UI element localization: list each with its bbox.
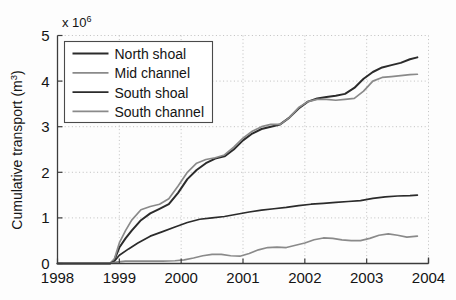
y-tick-label: 3 — [41, 118, 49, 135]
x-tick-label: 2003 — [350, 269, 383, 286]
x-tick-label: 2001 — [226, 269, 259, 286]
y-tick-label: 2 — [41, 164, 49, 181]
y-tick-label: 1 — [41, 209, 49, 226]
y-tick-label: 5 — [41, 27, 49, 44]
line-chart-plot: 0123451998199920002001200220032004 North… — [0, 0, 456, 300]
legend-label-south-channel[interactable]: South channel — [115, 104, 205, 120]
legend-label-mid-channel[interactable]: Mid channel — [115, 65, 191, 81]
chart-legend[interactable]: North shoalMid channelSouth shoalSouth c… — [65, 42, 213, 123]
y-tick-label: 4 — [41, 73, 49, 90]
x-tick-label: 2002 — [288, 269, 321, 286]
x-tick-label: 1998 — [41, 269, 74, 286]
chart-figure: 0123451998199920002001200220032004 North… — [0, 0, 456, 300]
legend-label-north-shoal[interactable]: North shoal — [115, 46, 187, 62]
legend-label-south-shoal[interactable]: South shoal — [115, 85, 189, 101]
x-tick-label: 1999 — [103, 269, 136, 286]
x-tick-label: 2000 — [164, 269, 197, 286]
x-tick-label: 2004 — [412, 269, 445, 286]
y-axis-title: Cumulative transport (m3) — [8, 70, 25, 229]
